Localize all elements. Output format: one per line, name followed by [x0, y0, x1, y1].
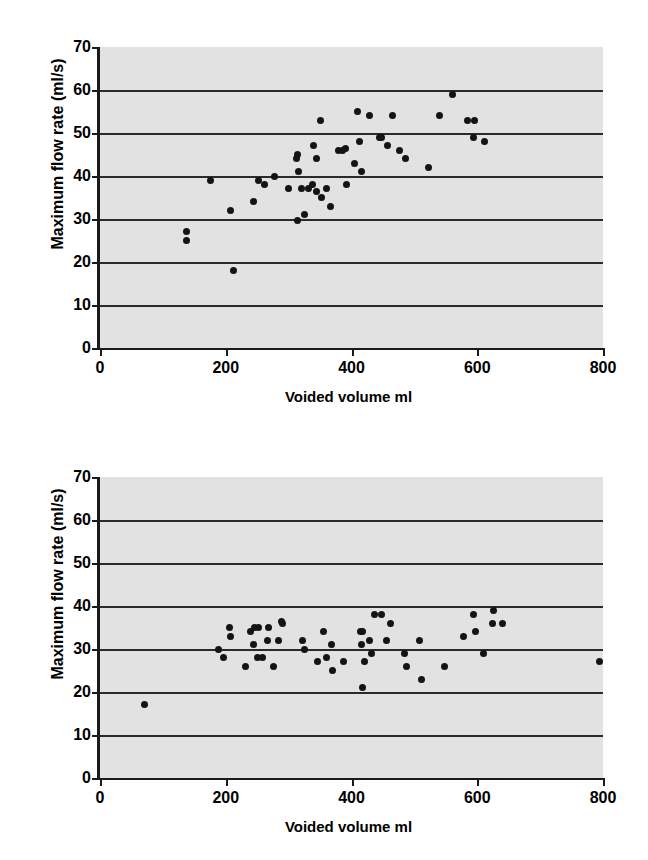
- y-tick-label: 0: [45, 769, 91, 787]
- data-point: [425, 164, 432, 171]
- y-tick-mark: [92, 520, 100, 522]
- y-tick-mark: [92, 477, 100, 479]
- y-tick-mark: [92, 563, 100, 565]
- x-tick-mark: [603, 778, 605, 786]
- data-point: [359, 684, 366, 691]
- y-tick-label: 20: [45, 253, 91, 271]
- y-tick-label: 0: [45, 339, 91, 357]
- data-point: [285, 185, 292, 192]
- data-point: [449, 91, 456, 98]
- y-tick-label: 70: [45, 468, 91, 486]
- y-tick-label: 70: [45, 38, 91, 56]
- data-point: [323, 185, 330, 192]
- y-tick-mark: [92, 47, 100, 49]
- data-point: [318, 194, 325, 201]
- x-tick-label: 800: [590, 359, 617, 377]
- x-tick-mark: [477, 778, 479, 786]
- data-point: [470, 611, 477, 618]
- data-point: [499, 620, 506, 627]
- x-tick-label: 0: [96, 789, 105, 807]
- data-point: [366, 637, 373, 644]
- data-point: [207, 177, 214, 184]
- data-point: [299, 637, 306, 644]
- x-tick-label: 0: [96, 359, 105, 377]
- data-point: [227, 207, 234, 214]
- y-tick-mark: [92, 692, 100, 694]
- data-point: [261, 181, 268, 188]
- data-point: [301, 211, 308, 218]
- data-point: [490, 607, 497, 614]
- data-point: [265, 624, 272, 631]
- gridline-horizontal: [100, 692, 603, 694]
- figure-container: Maximum flow rate (ml/s) 010203040506070…: [0, 0, 648, 860]
- data-point: [271, 173, 278, 180]
- gridline-horizontal: [100, 176, 603, 178]
- gridline-horizontal: [100, 262, 603, 264]
- y-tick-mark: [92, 219, 100, 221]
- y-tick-label: 60: [45, 511, 91, 529]
- plot-area-bottom: 0102030405060700200400600800: [97, 477, 603, 778]
- x-tick-label: 400: [338, 789, 365, 807]
- data-point: [378, 611, 385, 618]
- x-tick-label: 400: [338, 359, 365, 377]
- gridline-horizontal: [100, 133, 603, 135]
- data-point: [489, 620, 496, 627]
- data-point: [250, 641, 257, 648]
- data-point: [183, 228, 190, 235]
- x-tick-mark: [226, 778, 228, 786]
- data-point: [359, 628, 366, 635]
- data-point: [301, 646, 308, 653]
- y-tick-label: 50: [45, 124, 91, 142]
- data-point: [481, 138, 488, 145]
- data-point: [220, 654, 227, 661]
- data-point: [351, 160, 358, 167]
- data-point: [259, 654, 266, 661]
- data-point: [340, 658, 347, 665]
- x-tick-mark: [603, 348, 605, 356]
- x-tick-mark: [100, 778, 102, 786]
- x-tick-label: 800: [590, 789, 617, 807]
- data-point: [403, 663, 410, 670]
- y-tick-label: 30: [45, 210, 91, 228]
- x-tick-mark: [477, 348, 479, 356]
- data-point: [298, 185, 305, 192]
- gridline-horizontal: [100, 563, 603, 565]
- x-tick-label: 200: [212, 789, 239, 807]
- data-point: [275, 637, 282, 644]
- data-point: [480, 650, 487, 657]
- y-tick-mark: [92, 348, 100, 350]
- y-tick-mark: [92, 649, 100, 651]
- x-axis-title-bottom: Voided volume ml: [97, 818, 600, 835]
- gridline-horizontal: [100, 649, 603, 651]
- data-point: [215, 646, 222, 653]
- data-point: [183, 237, 190, 244]
- gridline-horizontal: [100, 219, 603, 221]
- data-point: [389, 112, 396, 119]
- data-point: [226, 624, 233, 631]
- y-tick-mark: [92, 735, 100, 737]
- data-point: [383, 637, 390, 644]
- data-point: [255, 624, 262, 631]
- data-point: [329, 667, 336, 674]
- data-point: [317, 117, 324, 124]
- y-tick-mark: [92, 90, 100, 92]
- data-point: [464, 117, 471, 124]
- y-tick-mark: [92, 176, 100, 178]
- data-point: [242, 663, 249, 670]
- data-point: [378, 134, 385, 141]
- data-point: [401, 650, 408, 657]
- x-tick-mark: [100, 348, 102, 356]
- x-tick-label: 600: [464, 789, 491, 807]
- data-point: [366, 112, 373, 119]
- y-tick-label: 40: [45, 597, 91, 615]
- data-point: [356, 138, 363, 145]
- data-point: [270, 663, 277, 670]
- data-point: [460, 633, 467, 640]
- data-point: [472, 628, 479, 635]
- y-tick-label: 20: [45, 683, 91, 701]
- data-point: [294, 151, 301, 158]
- data-point: [250, 198, 257, 205]
- gridline-horizontal: [100, 520, 603, 522]
- data-point: [141, 701, 148, 708]
- data-point: [310, 142, 317, 149]
